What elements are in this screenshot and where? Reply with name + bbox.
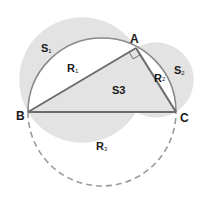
point-label-b: B xyxy=(16,109,25,123)
point-label-c: C xyxy=(180,111,189,125)
region-label-s3: S3 xyxy=(112,84,125,96)
lune-diagram: A B C S1 R1 S2 R2 S3 R3 xyxy=(0,0,206,203)
point-label-a: A xyxy=(130,32,139,46)
region-label-r3: R3 xyxy=(96,140,108,152)
